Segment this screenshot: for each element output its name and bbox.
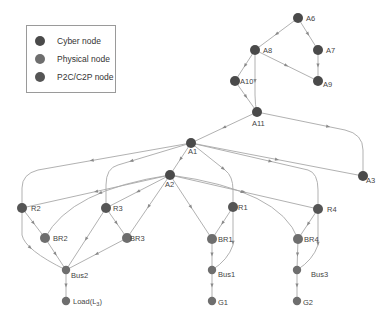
physical-node-icon [293, 297, 301, 305]
p2c-node-icon [17, 203, 27, 213]
node-label: A8 [263, 46, 272, 55]
node-g1: G1 [208, 297, 228, 307]
node-label: Bus1 [218, 270, 235, 279]
node-a3: A3 [358, 171, 375, 185]
node-label: BR4 [304, 235, 319, 244]
edge-arrow-icon [210, 253, 213, 257]
node-a9: A9 [313, 76, 332, 89]
edge-arrow-icon [222, 125, 227, 130]
cyber-node-icon [35, 36, 45, 46]
node-label: A9 [323, 80, 332, 89]
legend: Cyber node Physical node P2C/C2P node [26, 25, 116, 93]
node-g2: G2 [293, 297, 313, 307]
physical-node-icon [293, 234, 303, 244]
edge-arrow-icon [316, 64, 319, 68]
legend-item-cyber: Cyber node [35, 34, 101, 48]
physical-node-icon [40, 233, 50, 243]
node-label: G2 [303, 298, 313, 307]
node-r2: R2 [17, 203, 41, 213]
node-label: A6 [306, 14, 315, 23]
edge-arrow-icon [295, 284, 298, 288]
node-label: Load(L3) [73, 297, 102, 307]
node-a7: A7 [313, 45, 335, 55]
node-label: BR1 [218, 235, 233, 244]
legend-item-p2c: P2C/C2P node [35, 70, 114, 84]
edge-arrow-icon [306, 31, 311, 36]
edge [106, 143, 191, 208]
node-br3: BR3 [122, 233, 145, 243]
node-label: R1 [238, 203, 248, 212]
p2c-node-icon [101, 203, 111, 213]
physical-node-icon [35, 54, 45, 64]
node-a10: A10 [230, 76, 253, 86]
node-label: A3 [366, 176, 375, 185]
node-r4: R4 [313, 204, 337, 214]
edge [191, 143, 233, 207]
node-br2: BR2 [40, 233, 68, 243]
node-bus3: Bus3 [293, 266, 328, 279]
node-load: Load(L3) [62, 297, 103, 307]
legend-item-physical: Physical node [35, 52, 110, 66]
node-label: Bus2 [71, 271, 88, 280]
edge [257, 112, 363, 176]
node-br4: BR4 [293, 234, 319, 244]
node-r1: R1 [228, 202, 248, 212]
physical-node-icon [62, 266, 70, 274]
cyber-node-icon [252, 107, 262, 117]
physical-node-icon [207, 234, 217, 244]
physical-node-icon [208, 266, 216, 274]
legend-label: P2C/C2P node [57, 72, 114, 82]
cyber-node-icon [250, 45, 260, 55]
physical-node-icon [208, 297, 216, 305]
cyber-node-icon [165, 170, 175, 180]
edge-arrow-icon [210, 284, 213, 288]
node-label: A10 [240, 77, 253, 86]
node-label: BR2 [53, 234, 68, 243]
edge-arrow-icon [284, 63, 289, 68]
edge-arrow-icon [243, 63, 248, 68]
physical-node-icon [293, 266, 301, 274]
edge-arrow-icon [64, 284, 67, 288]
cyber-node-icon [313, 45, 323, 55]
edge-arrow-icon [129, 159, 134, 163]
p2c-node-icon [313, 204, 323, 214]
edge-arrow-icon [98, 191, 103, 195]
edge-arrow-icon [94, 252, 99, 257]
edge-arrow-icon [135, 189, 140, 194]
cyber-node-icon [230, 76, 240, 86]
edge [191, 143, 318, 209]
node-r3: R3 [101, 203, 123, 213]
node-label: R4 [327, 205, 337, 214]
node-label: BR3 [130, 234, 145, 243]
edge-arrow-icon [253, 79, 256, 83]
p2c-node-icon [35, 72, 45, 82]
physical-node-icon [62, 297, 70, 305]
edge-arrow-icon [84, 236, 89, 241]
node-br1: BR1 [207, 234, 233, 244]
cyber-node-icon [293, 13, 303, 23]
node-a2: A2 [165, 170, 175, 189]
node-label: Bus3 [311, 270, 328, 279]
node-a11: A11 [252, 107, 265, 128]
legend-label: Physical node [57, 54, 110, 64]
node-label: A2 [165, 180, 174, 189]
node-label: A1 [188, 147, 197, 156]
node-label: G1 [218, 298, 228, 307]
p2c-node-icon [228, 202, 238, 212]
node-label: R2 [31, 204, 41, 213]
legend-label: Cyber node [57, 36, 101, 46]
node-label: A11 [252, 119, 265, 128]
edge-arrow-icon [296, 252, 299, 256]
node-label: A7 [326, 46, 335, 55]
node-label: R3 [113, 204, 123, 213]
cyber-node-icon [313, 76, 323, 86]
node-a6: A6 [293, 13, 315, 23]
